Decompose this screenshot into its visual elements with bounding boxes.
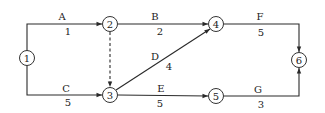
node-3: 3: [103, 88, 118, 103]
node-1-label: 1: [24, 53, 30, 64]
node-5: 5: [209, 89, 224, 104]
activity-c-duration: 5: [65, 97, 71, 108]
network-diagram: A 1 B 2 C 5 D 4 E 5 F 5 G 3 1 2 3 4 5 6: [0, 0, 325, 113]
node-4: 4: [209, 17, 224, 32]
activity-e-arrow: [118, 95, 208, 96]
activity-f-name: F: [257, 11, 264, 22]
node-3-label: 3: [107, 90, 113, 101]
node-2: 2: [103, 17, 118, 32]
activity-e-duration: 5: [157, 98, 163, 109]
activity-d-arrow: [116, 29, 210, 90]
activity-e-name: E: [157, 83, 164, 94]
node-4-label: 4: [213, 19, 219, 30]
activity-d-name: D: [151, 51, 159, 62]
activity-b-name: B: [151, 11, 158, 22]
activity-c-name: C: [62, 83, 70, 94]
activity-g-name: G: [254, 84, 262, 95]
node-6: 6: [292, 53, 307, 68]
node-1: 1: [20, 51, 35, 66]
node-5-label: 5: [213, 91, 219, 102]
activity-a-duration: 1: [65, 26, 71, 37]
activity-d-duration: 4: [166, 61, 172, 72]
node-6-label: 6: [296, 55, 302, 66]
activity-g-duration: 3: [258, 99, 264, 110]
activity-f-duration: 5: [258, 27, 264, 38]
node-2-label: 2: [107, 19, 113, 30]
activity-b-duration: 2: [157, 26, 163, 37]
activity-a-name: A: [57, 11, 66, 22]
